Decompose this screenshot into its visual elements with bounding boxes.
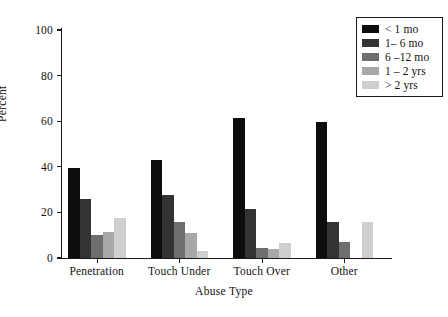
legend-swatch-icon: [362, 67, 379, 75]
y-tick-label: 80: [41, 67, 53, 85]
x-tick-label: Other: [331, 265, 358, 277]
plot-area: [62, 30, 392, 258]
bar: [233, 118, 245, 258]
y-tick-label: 40: [41, 158, 53, 176]
y-tick-label: 100: [35, 21, 53, 39]
bar: [91, 235, 103, 258]
bar: [339, 242, 351, 258]
legend-label: 1– 6 mo: [385, 36, 423, 50]
bar: [268, 249, 280, 258]
x-tick-mark: [97, 258, 98, 263]
x-tick-label: Penetration: [69, 265, 124, 277]
x-tick-mark: [262, 258, 263, 263]
bar-group: [233, 30, 291, 258]
y-axis-title: Percent: [0, 85, 8, 122]
bar: [68, 168, 80, 258]
bar: [327, 222, 339, 258]
chart-legend: < 1 mo1– 6 mo6 –12 mo1 – 2 yrs> 2 yrs: [356, 17, 443, 97]
bar: [362, 222, 374, 258]
legend-label: > 2 yrs: [385, 78, 418, 92]
x-tick-mark: [179, 258, 180, 263]
legend-item: 6 –12 mo: [362, 50, 438, 64]
bar-group: [151, 30, 209, 258]
bar: [174, 222, 186, 258]
bar: [80, 199, 92, 258]
bar: [256, 248, 268, 258]
x-axis-title: Abuse Type: [0, 285, 448, 297]
legend-swatch-icon: [362, 81, 379, 89]
legend-item: > 2 yrs: [362, 78, 438, 92]
legend-swatch-icon: [362, 53, 379, 61]
x-tick-label: Touch Under: [148, 265, 210, 277]
legend-label: 1 – 2 yrs: [385, 64, 426, 78]
x-tick-label: Touch Over: [234, 265, 290, 277]
legend-label: 6 –12 mo: [385, 50, 429, 64]
y-tick-label: 20: [41, 203, 53, 221]
bar: [279, 243, 291, 258]
legend-swatch-icon: [362, 39, 379, 47]
y-tick-label: 60: [41, 112, 53, 130]
bar: [245, 209, 257, 258]
y-tick-label: 0: [47, 249, 53, 267]
bar: [185, 233, 197, 258]
x-tick-mark: [344, 258, 345, 263]
bar: [114, 218, 126, 258]
bar-chart: Percent Abuse Type 020406080100 Penetrat…: [0, 0, 448, 317]
bar-group: [68, 30, 126, 258]
legend-swatch-icon: [362, 25, 379, 33]
legend-item: < 1 mo: [362, 22, 438, 36]
bar: [316, 122, 328, 258]
bar: [103, 232, 115, 258]
bar: [162, 195, 174, 258]
legend-item: 1 – 2 yrs: [362, 64, 438, 78]
bar: [197, 251, 209, 258]
legend-label: < 1 mo: [385, 22, 418, 36]
bar: [151, 160, 163, 258]
legend-item: 1– 6 mo: [362, 36, 438, 50]
